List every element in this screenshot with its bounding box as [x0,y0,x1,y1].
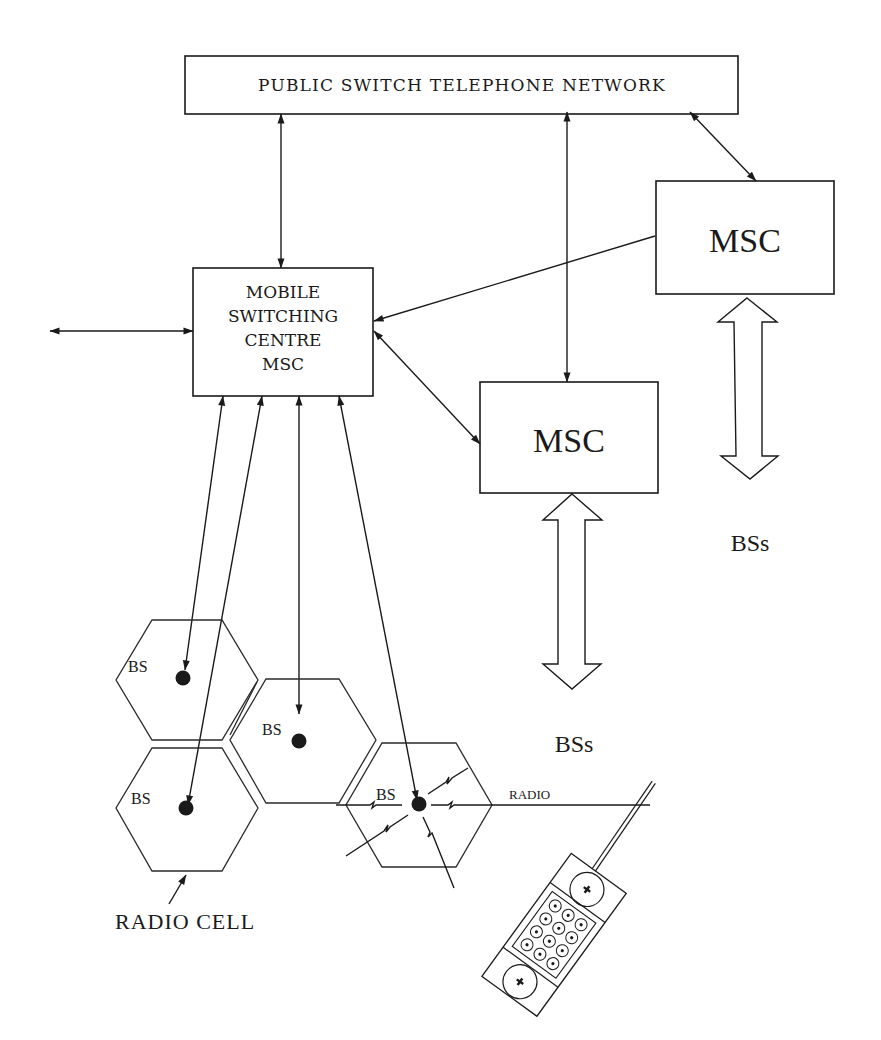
base-station-label: BS [128,658,148,675]
base-station-label: BS [131,790,151,807]
radio-cell-label: RADIO CELL [115,909,255,934]
msc-right-label: MSC [709,222,781,259]
pstn-label: PUBLIC SWITCH TELEPHONE NETWORK [258,75,666,95]
base-station-1: BS [128,658,191,686]
base-station-2: BS [131,790,194,816]
base-station-3: BS [262,721,307,749]
base-station-dot-icon [412,797,427,812]
radio-cell-pointer-arrow [169,875,186,904]
bss-right-double-arrow-icon [718,298,778,479]
main-msc-line-4: MSC [262,354,304,374]
base-station-dot-icon [292,734,307,749]
antenna [589,781,655,870]
main-msc-line-2: SWITCHING [228,306,338,326]
radio-link-northeast-lightning-zigzag-icon [428,768,468,794]
main-right-msc-link [374,236,655,321]
bss-middle-label: BSs [555,731,594,757]
base-station-label: BS [376,786,396,803]
radio-link-east-lightning-zigzag-icon [431,802,650,808]
msc-bs-link-4 [339,396,417,800]
main-middle-msc-link [374,331,480,444]
bss-right-label: BSs [731,530,770,556]
msc-middle-node: MSC [480,382,658,493]
radio-label: RADIO [509,787,550,802]
radio-link-south-lightning-zigzag-icon [423,817,454,888]
pstn-node: PUBLIC SWITCH TELEPHONE NETWORK [185,56,738,114]
main-msc-node: MOBILE SWITCHING CENTRE MSC [193,268,373,396]
pstn-right-msc-link [690,112,756,181]
msc-right-node: MSC [656,181,834,294]
main-msc-line-3: CENTRE [245,330,322,350]
handset-body [482,853,626,1016]
bss-middle-double-arrow-icon [543,494,602,689]
cell-gap-line [230,682,257,735]
antenna-inner [592,783,658,872]
main-msc-line-1: MOBILE [246,282,320,302]
msc-middle-label: MSC [533,422,605,459]
base-station-dot-icon [176,671,191,686]
msc-bs-link-2 [188,396,262,805]
cellular-network-diagram: PUBLIC SWITCH TELEPHONE NETWORK MOBILE S… [0,0,881,1040]
base-station-label: BS [262,721,282,738]
base-station-dot-icon [179,801,194,816]
base-station-4: BS [376,786,427,812]
msc-bs-link-1 [185,396,223,670]
